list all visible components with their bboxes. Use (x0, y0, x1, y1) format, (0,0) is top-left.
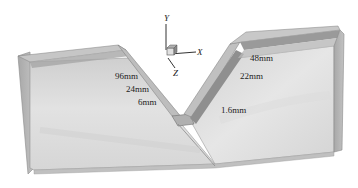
annotation-48mm: 48mm (250, 53, 273, 63)
figure-canvas: Y X Z 96mm 24mm 6mm 48mm 22mm 1.6mm (0, 0, 358, 188)
right-side-face (334, 30, 344, 152)
annotation-22mm: 22mm (240, 71, 263, 81)
z-axis-line (168, 58, 175, 68)
z-axis-label: Z (173, 68, 179, 78)
coordinate-axes: Y X Z (164, 13, 203, 78)
x-axis-label: X (196, 47, 203, 57)
origin-cube (167, 48, 174, 55)
annotation-96mm: 96mm (115, 71, 138, 81)
annotation-1-6mm: 1.6mm (221, 105, 246, 115)
y-axis-label: Y (164, 13, 170, 23)
annotation-24mm: 24mm (126, 84, 149, 94)
weld-model-diagram: Y X Z 96mm 24mm 6mm 48mm 22mm 1.6mm (0, 0, 358, 188)
annotation-6mm: 6mm (138, 97, 157, 107)
